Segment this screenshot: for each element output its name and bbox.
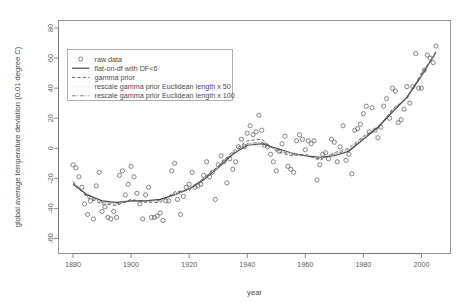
data-point <box>347 152 351 156</box>
y-tick-label: 60 <box>47 54 56 62</box>
data-point <box>132 175 136 179</box>
data-point <box>83 202 87 206</box>
data-point <box>234 160 238 164</box>
data-point <box>335 160 339 164</box>
data-point <box>318 163 322 167</box>
data-point <box>144 193 148 197</box>
data-point <box>213 197 217 201</box>
data-point <box>370 106 374 110</box>
data-point <box>295 139 299 143</box>
y-axis-title: global average temperature deviation (0.… <box>13 46 22 227</box>
data-point <box>344 158 348 162</box>
data-point <box>431 60 435 64</box>
data-point <box>161 218 165 222</box>
x-tick-label: 1980 <box>355 260 371 269</box>
data-point <box>123 193 127 197</box>
legend-item: rescale gamma prior Euclidean length x 1… <box>72 91 235 100</box>
data-point <box>350 172 354 176</box>
data-point <box>77 175 81 179</box>
data-point <box>114 215 118 219</box>
data-point <box>283 134 287 138</box>
y-tick-label: 20 <box>47 114 56 122</box>
x-tick-label: 1920 <box>181 260 197 269</box>
legend-label: gamma prior <box>95 73 136 82</box>
data-point <box>146 185 150 189</box>
data-point <box>135 191 139 195</box>
data-point <box>178 212 182 216</box>
data-point <box>274 169 278 173</box>
y-tick-label: -20 <box>47 173 56 183</box>
data-point <box>254 130 258 134</box>
data-point <box>399 118 403 122</box>
data-point <box>358 122 362 126</box>
data-point <box>103 205 107 209</box>
data-point <box>248 124 252 128</box>
data-point <box>170 169 174 173</box>
data-point <box>129 164 133 168</box>
legend-label: rescale gamma prior Euclidean length x 1… <box>95 91 235 100</box>
data-point <box>257 113 261 117</box>
data-point <box>364 104 368 108</box>
data-point <box>97 170 101 174</box>
y-tick-label: -60 <box>47 233 56 243</box>
x-tick-label: 1960 <box>297 260 313 269</box>
chart-legend: raw dataflat-on-df with DF<6gamma priorr… <box>68 50 235 101</box>
data-point <box>245 131 249 135</box>
data-point <box>91 217 95 221</box>
x-tick-label: 1940 <box>239 260 255 269</box>
data-point <box>260 128 264 132</box>
data-point <box>173 161 177 165</box>
x-tick-label: 1900 <box>123 260 139 269</box>
data-point <box>405 85 409 89</box>
data-point <box>338 145 342 149</box>
data-point <box>94 184 98 188</box>
data-point <box>239 137 243 141</box>
x-axis-title: year <box>247 288 262 297</box>
data-point <box>88 199 92 203</box>
data-point <box>85 212 89 216</box>
legend-label: raw data <box>95 55 123 64</box>
y-tick-label: 0 <box>47 146 56 150</box>
data-point <box>376 136 380 140</box>
data-point <box>434 44 438 48</box>
data-point <box>204 160 208 164</box>
data-point <box>158 211 162 215</box>
data-point <box>382 104 386 108</box>
data-point <box>341 124 345 128</box>
data-point <box>393 89 397 93</box>
legend-label: rescale gamma prior Euclidean length x 5… <box>95 82 231 91</box>
data-point <box>120 169 124 173</box>
data-point <box>315 178 319 182</box>
data-point <box>138 202 142 206</box>
chart-figure: -60-40-200204060801880190019201940196019… <box>0 0 472 303</box>
data-point <box>408 101 412 105</box>
data-point <box>190 170 194 174</box>
x-tick-label: 1880 <box>65 260 81 269</box>
data-point <box>292 170 296 174</box>
data-point <box>332 140 336 144</box>
data-point <box>385 97 389 101</box>
x-tick-label: 2000 <box>413 260 429 269</box>
data-point <box>326 157 330 161</box>
y-tick-label: 40 <box>47 84 56 92</box>
data-point <box>280 142 284 146</box>
data-point <box>219 154 223 158</box>
data-point <box>141 217 145 221</box>
data-point <box>402 107 406 111</box>
data-point <box>268 152 272 156</box>
data-point <box>300 137 304 141</box>
data-point <box>303 148 307 152</box>
legend-label: flat-on-df with DF<6 <box>95 64 158 73</box>
data-point <box>74 166 78 170</box>
temperature-deviation-scatter-plot: -60-40-200204060801880190019201940196019… <box>0 0 472 303</box>
y-tick-label: 80 <box>47 24 56 32</box>
data-point <box>231 167 235 171</box>
data-point <box>271 160 275 164</box>
data-point <box>100 209 104 213</box>
data-point <box>312 139 316 143</box>
data-point <box>175 197 179 201</box>
data-point <box>181 194 185 198</box>
data-point <box>361 112 365 116</box>
data-point <box>225 181 229 185</box>
data-point <box>414 51 418 55</box>
